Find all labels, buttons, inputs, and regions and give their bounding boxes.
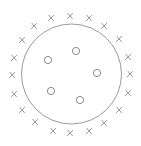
x-marker-icon — [11, 91, 16, 96]
x-marker-icon — [116, 36, 121, 41]
x-marker-icon — [67, 13, 72, 18]
x-marker-icon — [125, 90, 130, 95]
circle-marker-icon — [93, 69, 100, 76]
circle-marker-icon — [76, 96, 83, 103]
x-marker-icon — [50, 128, 55, 133]
x-marker-icon — [86, 128, 91, 133]
diagram-canvas — [0, 0, 141, 146]
x-marker-icon — [19, 37, 24, 42]
x-marker-icon — [125, 54, 130, 59]
x-marker-icon — [48, 15, 53, 20]
circle-marker-icon — [47, 87, 54, 94]
x-marker-icon — [101, 23, 106, 28]
x-marker-icon — [9, 72, 14, 77]
x-marker-icon — [19, 107, 24, 112]
boundary-circle — [22, 24, 122, 124]
x-marker-icon — [101, 120, 106, 125]
x-marker-icon — [86, 15, 91, 20]
x-marker-icon — [67, 130, 72, 135]
inside-points-group — [44, 47, 100, 103]
outside-points-group — [9, 13, 132, 135]
circle-marker-icon — [44, 56, 51, 63]
x-marker-icon — [11, 55, 16, 60]
diagram-svg — [0, 0, 141, 146]
x-marker-icon — [31, 23, 36, 28]
circle-marker-icon — [72, 47, 79, 54]
x-marker-icon — [127, 71, 132, 76]
x-marker-icon — [32, 119, 37, 124]
x-marker-icon — [116, 107, 121, 112]
